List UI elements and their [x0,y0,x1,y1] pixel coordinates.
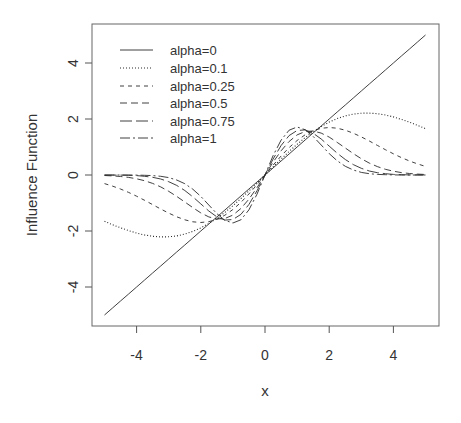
x-tick-label: 0 [261,347,269,363]
x-axis-label: x [261,382,269,399]
legend-label: alpha=0.25 [170,79,235,94]
x-tick-label: 4 [390,347,398,363]
x-axis: -4-2024 [130,326,397,363]
x-tick-label: -4 [130,347,143,363]
y-tick-label: -2 [65,225,81,238]
legend-label: alpha=1 [170,131,217,146]
series-line [105,127,426,223]
y-axis: -4-2024 [65,59,92,293]
y-tick-label: -4 [65,281,81,294]
legend-label: alpha=0.5 [170,96,227,111]
y-tick-label: 4 [65,59,81,67]
x-tick-label: 2 [325,347,333,363]
y-tick-label: 0 [65,171,81,179]
x-tick-label: -2 [195,347,208,363]
legend-label: alpha=0.75 [170,114,235,129]
legend-label: alpha=0 [170,43,217,58]
y-axis-label: Influence Function [23,114,40,237]
y-tick-label: 2 [65,115,81,123]
data-series [105,35,426,315]
legend: alpha=0alpha=0.1alpha=0.25alpha=0.5alpha… [120,43,235,146]
legend-label: alpha=0.1 [170,61,227,76]
influence-function-chart: -4-2024 -4-2024 alpha=0alpha=0.1alpha=0.… [0,0,461,423]
